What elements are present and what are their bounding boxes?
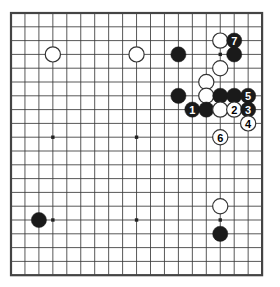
star-point <box>51 136 54 139</box>
stone-disc <box>227 88 242 103</box>
go-board[interactable]: 7512346 <box>0 0 280 287</box>
white-stone[interactable] <box>199 74 214 89</box>
move-number-label: 6 <box>217 132 223 144</box>
black-stone[interactable] <box>31 212 46 227</box>
white-stone[interactable]: 4 <box>241 116 256 131</box>
star-point <box>135 218 138 221</box>
black-stone[interactable]: 1 <box>185 102 200 117</box>
stone-disc <box>31 212 46 227</box>
black-stone[interactable] <box>227 88 242 103</box>
star-point <box>135 136 138 139</box>
stone-disc <box>213 33 228 48</box>
stone-disc <box>213 226 228 241</box>
stone-disc <box>199 74 214 89</box>
white-stone[interactable] <box>213 33 228 48</box>
white-stone[interactable]: 2 <box>227 102 242 117</box>
star-point <box>219 218 222 221</box>
black-stone[interactable] <box>199 102 214 117</box>
move-number-label: 2 <box>231 104 237 116</box>
go-diagram-container: 7512346 <box>0 0 280 287</box>
black-stone[interactable] <box>213 226 228 241</box>
white-stone[interactable]: 6 <box>213 130 228 145</box>
black-stone[interactable] <box>171 47 186 62</box>
move-number-label: 4 <box>245 118 252 130</box>
black-stone[interactable]: 3 <box>241 102 256 117</box>
star-point <box>51 218 54 221</box>
white-stone[interactable] <box>199 88 214 103</box>
move-number-label: 1 <box>189 104 195 116</box>
white-stone[interactable] <box>213 102 228 117</box>
stone-disc <box>227 47 242 62</box>
move-number-label: 7 <box>231 35 237 47</box>
stone-disc <box>199 102 214 117</box>
stone-disc <box>45 47 60 62</box>
stone-disc <box>213 199 228 214</box>
stone-disc <box>171 88 186 103</box>
white-stone[interactable] <box>129 47 144 62</box>
white-stone[interactable] <box>213 61 228 76</box>
stone-disc <box>213 88 228 103</box>
star-point <box>219 53 222 56</box>
stone-disc <box>199 88 214 103</box>
move-number-label: 5 <box>245 90 251 102</box>
move-number-label: 3 <box>245 104 251 116</box>
black-stone[interactable] <box>213 88 228 103</box>
stone-disc <box>213 61 228 76</box>
white-stone[interactable] <box>45 47 60 62</box>
white-stone[interactable] <box>213 199 228 214</box>
stone-disc <box>171 47 186 62</box>
black-stone[interactable]: 7 <box>227 33 242 48</box>
black-stone[interactable] <box>227 47 242 62</box>
black-stone[interactable]: 5 <box>241 88 256 103</box>
stone-disc <box>213 102 228 117</box>
stone-disc <box>129 47 144 62</box>
black-stone[interactable] <box>171 88 186 103</box>
